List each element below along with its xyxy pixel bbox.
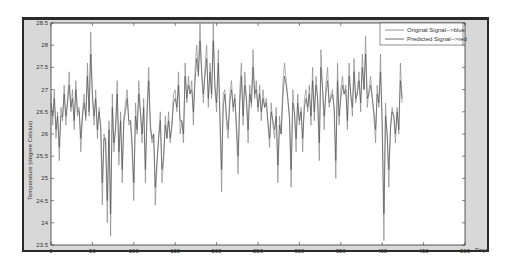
y-tick-label: 26.5 xyxy=(36,109,48,115)
x-tick-label: 450 xyxy=(419,248,430,254)
chart-figure: 23.52424.52525.52626.52727.52828.5 05010… xyxy=(22,17,489,252)
y-tick-label: 23.5 xyxy=(36,242,48,248)
line-chart: 23.52424.52525.52626.52727.52828.5 05010… xyxy=(24,20,491,255)
legend-label-predicted: Predicted Signal-->red xyxy=(407,36,467,42)
x-tick-label: 300 xyxy=(294,248,305,254)
x-tick-label: 400 xyxy=(377,248,388,254)
y-tick-label: 28.5 xyxy=(36,20,48,26)
y-tick-label: 26 xyxy=(41,131,48,137)
y-tick-label: 25 xyxy=(41,175,48,181)
legend-label-original: Original Signal-->blue xyxy=(407,27,466,33)
x-tick-label: 0 xyxy=(49,248,53,254)
y-tick-label: 28 xyxy=(41,42,48,48)
y-tick-label: 27 xyxy=(41,87,48,93)
x-tick-label: 500 xyxy=(460,248,471,254)
legend: Original Signal-->blue Predicted Signal-… xyxy=(380,23,467,45)
x-tick-label: 250 xyxy=(253,248,264,254)
y-axis-title: Temperature (degree Celcius) xyxy=(27,121,33,200)
plot-area xyxy=(51,23,465,245)
x-tick-label: 50 xyxy=(89,248,96,254)
y-tick-label: 24 xyxy=(41,220,48,226)
y-tick-label: 27.5 xyxy=(36,64,48,70)
x-tick-label: 350 xyxy=(336,248,347,254)
x-tick-label: 150 xyxy=(170,248,181,254)
y-tick-label: 24.5 xyxy=(36,198,48,204)
x-tick-label: 200 xyxy=(212,248,223,254)
y-tick-label: 25.5 xyxy=(36,153,48,159)
x-tick-label: 100 xyxy=(129,248,140,254)
x-axis-title: Days xyxy=(475,247,489,253)
